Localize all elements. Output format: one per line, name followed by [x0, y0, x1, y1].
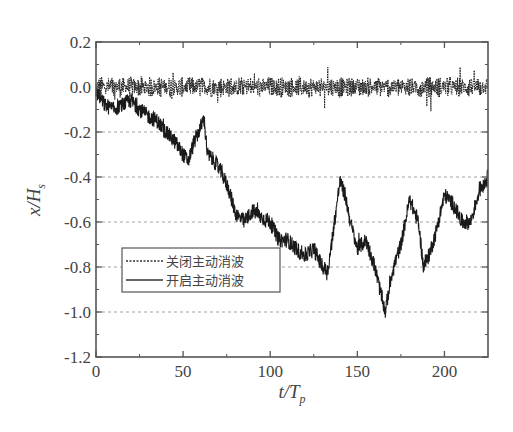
x-tick-label: 200 [432, 362, 458, 381]
y-tick-label: 0.2 [70, 33, 91, 52]
x-tick-label: 0 [92, 362, 101, 381]
y-tick-label: -0.8 [64, 258, 91, 277]
x-tick-label: 100 [257, 362, 283, 381]
line-closed [96, 67, 488, 111]
y-tick-label: -1.2 [64, 348, 91, 367]
x-tick-label: 50 [175, 362, 192, 381]
chart: 050100150200 0.20.0-0.2-0.4-0.6-0.8-1.0-… [0, 0, 513, 432]
y-tick-label: -1.0 [64, 303, 91, 322]
y-tick-labels: 0.20.0-0.2-0.4-0.6-0.8-1.0-1.2 [64, 33, 91, 367]
y-tick-label: -0.2 [64, 123, 91, 142]
x-tick-label: 150 [345, 362, 371, 381]
y-axis-title: x/Hs [23, 184, 48, 217]
legend-label-open: 开启主动消波 [166, 273, 244, 288]
x-tick-labels: 050100150200 [92, 362, 457, 381]
y-tick-label: -0.4 [64, 168, 91, 187]
legend: 关闭主动消波 开启主动消波 [122, 248, 280, 292]
series-closed-wave-absorption [96, 67, 488, 111]
legend-label-closed: 关闭主动消波 [166, 254, 244, 269]
y-tick-label: -0.6 [64, 213, 91, 232]
x-axis-title: t/Tp [278, 381, 305, 406]
y-tick-label: 0.0 [70, 78, 91, 97]
